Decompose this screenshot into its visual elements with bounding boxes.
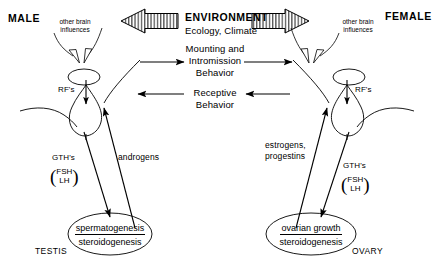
diagram-vector-layer bbox=[0, 0, 434, 268]
environment-title: ENVIRONMENT bbox=[185, 12, 268, 24]
female-brain-outline-right bbox=[357, 108, 414, 127]
receptive-behavior-line2: Behavior bbox=[184, 100, 246, 111]
female-steroidogenesis-label: steroidogenesis bbox=[268, 236, 354, 248]
male-androgens-arrow bbox=[104, 108, 135, 228]
male-gth-arrow bbox=[84, 132, 110, 217]
male-rfs-label: RF's bbox=[58, 86, 75, 95]
spermatogenesis-label: spermatogenesis bbox=[75, 222, 146, 235]
female-estrogens-progestins-arrow bbox=[296, 108, 327, 228]
female-fsh-lh-group: ( FSH LH ) bbox=[341, 175, 370, 194]
female-gth-label: GTH's bbox=[343, 162, 366, 171]
androgens-label: androgens bbox=[118, 153, 159, 163]
female-brain-influences-note: other brain influences bbox=[334, 18, 382, 34]
mounting-behavior-line1: Mounting and bbox=[184, 44, 246, 55]
male-fsh-lh-stack: FSH LH bbox=[56, 168, 72, 186]
male-brain-influences-line1: other brain bbox=[51, 18, 99, 26]
female-brain-influences-line2: influences bbox=[334, 26, 382, 34]
male-label: MALE bbox=[8, 13, 40, 25]
ovary-label: OVARY bbox=[352, 247, 383, 257]
estrogens-label: estrogens, bbox=[265, 141, 306, 151]
environment-left-arrow-icon bbox=[121, 9, 178, 33]
female-rfs-label: RF's bbox=[355, 86, 372, 95]
male-hypothalamus-ellipse bbox=[68, 69, 100, 85]
male-gth-label: GTH's bbox=[52, 154, 75, 163]
ovary-contents: ovarian growth steroidogenesis bbox=[268, 222, 354, 248]
female-fsh-lh-close-paren: ) bbox=[363, 175, 369, 194]
mounting-behavior-line3: Behavior bbox=[184, 68, 246, 79]
female-fsh-lh-stack: FSH LH bbox=[347, 176, 363, 194]
female-label: FEMALE bbox=[385, 11, 432, 23]
male-brain-influences-note: other brain influences bbox=[51, 18, 99, 34]
male-fsh-lh-close-paren: ) bbox=[72, 167, 78, 186]
female-brain-outline-upper bbox=[293, 60, 329, 103]
male-lh-label: LH bbox=[56, 177, 72, 186]
male-fsh-lh-group: ( FSH LH ) bbox=[50, 167, 79, 186]
female-lh-label: LH bbox=[347, 185, 363, 194]
male-steroidogenesis-label: steroidogenesis bbox=[70, 236, 150, 248]
receptive-behavior-line1: Receptive bbox=[184, 88, 246, 99]
mounting-behavior-line2: Intromission bbox=[184, 56, 246, 67]
female-brain-influences-line1: other brain bbox=[334, 18, 382, 26]
progestins-label: progestins bbox=[265, 152, 305, 162]
male-brain-outline-upper bbox=[104, 60, 140, 103]
female-other-brain-influences-arrows-icon bbox=[291, 28, 339, 63]
testis-contents: spermatogenesis steroidogenesis bbox=[70, 222, 150, 248]
male-brain-influences-line2: influences bbox=[51, 26, 99, 34]
environment-subtitle: Ecology, Climate bbox=[185, 26, 257, 37]
testis-label: TESTIS bbox=[35, 247, 67, 257]
diagram-canvas: MALE FEMALE ENVIRONMENT Ecology, Climate… bbox=[0, 0, 434, 268]
female-hypothalamus-ellipse bbox=[333, 69, 365, 85]
male-brain-outline-left bbox=[20, 108, 77, 127]
ovarian-growth-label: ovarian growth bbox=[280, 222, 341, 235]
